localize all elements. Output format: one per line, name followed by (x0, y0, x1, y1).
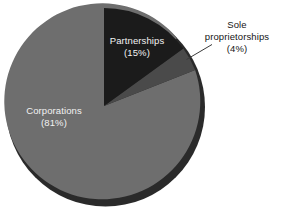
leader-line-sole-proprietorships (187, 45, 213, 60)
pie-chart-graphic (0, 0, 283, 214)
pie-chart: Partnerships (15%) Corporations (81%) So… (0, 0, 283, 214)
